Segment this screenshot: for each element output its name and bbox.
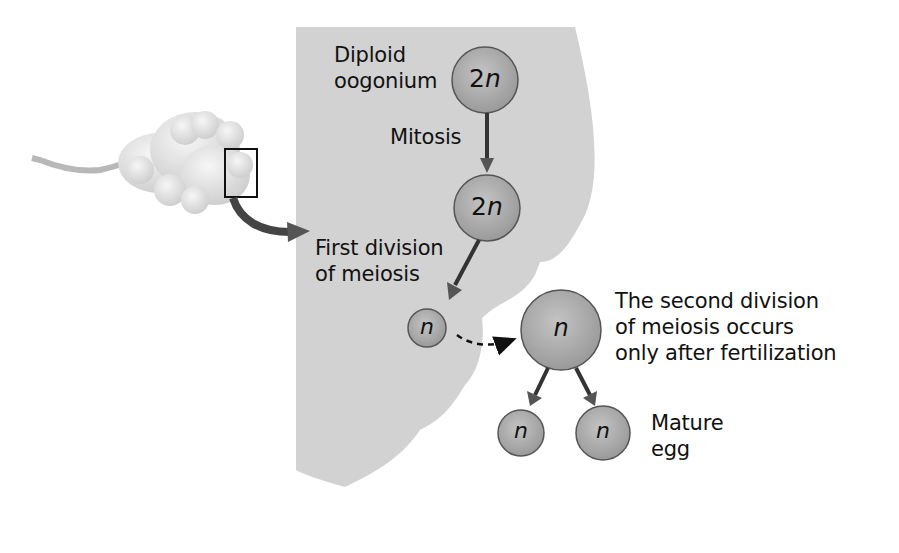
ovulated-oocyte-ploidy-label: n xyxy=(531,314,591,342)
mature-egg-ploidy-label: n xyxy=(583,418,623,443)
meiosis-two-right-arrow-icon xyxy=(576,368,590,395)
mitosis-label: Mitosis xyxy=(390,124,461,150)
zoom-arrow-icon xyxy=(233,198,290,232)
diploid-oogonium-label: Diploid oogonium xyxy=(334,42,437,94)
oogenesis-diagram xyxy=(0,0,899,553)
first-meiosis-label: First division of meiosis xyxy=(315,235,443,287)
meiosis-two-left-arrow-icon xyxy=(535,368,548,395)
secondary-oocyte-ploidy-label: n xyxy=(407,314,447,339)
oogonium-ploidy-label: 2n xyxy=(452,64,518,93)
mature-egg-label: Mature egg xyxy=(651,410,723,462)
polar-body-ploidy-label: n xyxy=(501,418,541,443)
ovary-icon xyxy=(32,111,253,214)
second-meiosis-label: The second division of meiosis occurs on… xyxy=(615,288,836,366)
primary-oocyte-ploidy-label: 2n xyxy=(454,192,520,221)
